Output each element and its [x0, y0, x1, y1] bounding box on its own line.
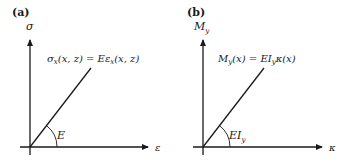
panel-a: (a) σ ε E σx(x, z) = Eεx(x, z) — [12, 6, 160, 155]
figure-canvas: (a) σ ε E σx(x, z) = Eεx(x, z) (b) My κ … — [0, 0, 349, 167]
y-axis-label-sigma: σ — [26, 20, 34, 33]
y-axis-label-moment: My — [193, 20, 210, 35]
angle-arc — [47, 126, 58, 147]
equation-hookes-law: σx(x, z) = Eεx(x, z) — [47, 53, 139, 66]
angle-label-E: E — [56, 129, 65, 142]
panel-label-a: (a) — [12, 6, 30, 19]
equation-moment-curvature: My(x) = EIyκ(x) — [217, 53, 296, 66]
angle-label-EI: EIy — [228, 129, 246, 144]
panel-b: (b) My κ EIy My(x) = EIyκ(x) — [187, 6, 336, 155]
panel-label-b: (b) — [187, 6, 205, 19]
x-axis-label-epsilon: ε — [155, 142, 160, 153]
x-axis-label-kappa: κ — [328, 142, 336, 153]
